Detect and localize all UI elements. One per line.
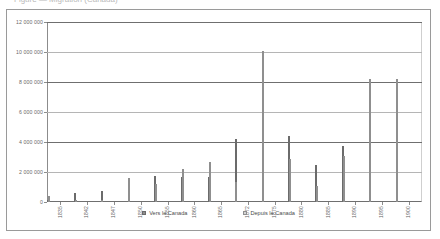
chart-frame: 02 000 0004 000 0006 000 0008 000 00010 …	[6, 9, 431, 231]
x-axis-tick	[355, 202, 356, 205]
bar-group	[235, 22, 262, 202]
bar-group	[368, 22, 395, 202]
bar-group	[315, 22, 342, 202]
legend: Vers le Canada Depuis le Canada	[7, 210, 430, 216]
caption-text: Figure — Migration (Canada)	[14, 0, 118, 4]
x-axis-tick	[194, 202, 195, 205]
bar-group	[395, 22, 422, 202]
bar-depuis-le-canada	[316, 186, 318, 202]
bar-depuis-le-canada	[101, 200, 103, 202]
bar-depuis-le-canada	[289, 159, 291, 202]
y-axis-tick-label: 12 000 000	[16, 19, 43, 25]
bar-group	[288, 22, 315, 202]
x-axis-tick	[275, 202, 276, 205]
legend-swatch-icon-series1	[243, 211, 247, 215]
y-axis-tick-label: 4 000 000	[19, 139, 43, 145]
x-axis-tick	[114, 202, 115, 205]
bar-depuis-le-canada	[182, 169, 184, 202]
bars-layer	[47, 22, 422, 202]
x-axis-tick	[87, 202, 88, 205]
x-axis-tick	[301, 202, 302, 205]
bar-group	[101, 22, 128, 202]
y-axis-tick-label: 10 000 000	[16, 49, 43, 55]
x-axis-tick	[328, 202, 329, 205]
x-axis-tick	[60, 202, 61, 205]
bar-depuis-le-canada	[396, 79, 398, 202]
legend-item-depuis-le-canada: Depuis le Canada	[243, 210, 294, 216]
x-axis-tick	[141, 202, 142, 205]
bar-depuis-le-canada	[235, 182, 237, 202]
caption-strip: Figure — Migration (Canada)	[0, 0, 440, 9]
bar-depuis-le-canada	[343, 156, 345, 203]
bar-depuis-le-canada	[369, 79, 371, 202]
bar-group	[261, 22, 288, 202]
bar-depuis-le-canada	[128, 178, 130, 202]
bar-group	[208, 22, 235, 202]
legend-label-series1: Depuis le Canada	[250, 210, 294, 216]
bar-depuis-le-canada	[48, 196, 50, 202]
bar-group	[342, 22, 369, 202]
bar-group	[181, 22, 208, 202]
bar-group	[127, 22, 154, 202]
y-axis-tick-label: 8 000 000	[19, 79, 43, 85]
y-axis-tick-label: 6 000 000	[19, 109, 43, 115]
legend-label-series0: Vers le Canada	[149, 210, 187, 216]
y-axis-tick	[44, 202, 47, 203]
x-axis-tick	[409, 202, 410, 205]
y-axis-tick-label: 0	[40, 199, 43, 205]
bar-depuis-le-canada	[155, 184, 157, 202]
x-axis-tick	[248, 202, 249, 205]
bar-group	[47, 22, 74, 202]
x-axis-tick	[221, 202, 222, 205]
chart-screenshot: Figure — Migration (Canada) 02 000 0004 …	[0, 0, 440, 239]
y-axis-tick-label: 2 000 000	[19, 169, 43, 175]
plot-area: 02 000 0004 000 0006 000 0008 000 00010 …	[47, 22, 422, 202]
bar-group	[74, 22, 101, 202]
bar-group	[154, 22, 181, 202]
x-axis-tick	[168, 202, 169, 205]
legend-item-vers-le-canada: Vers le Canada	[142, 210, 187, 216]
bar-depuis-le-canada	[75, 200, 77, 202]
bar-depuis-le-canada	[209, 162, 211, 203]
bar-depuis-le-canada	[262, 51, 264, 203]
legend-swatch-icon-series0	[142, 211, 146, 215]
x-axis-tick	[382, 202, 383, 205]
